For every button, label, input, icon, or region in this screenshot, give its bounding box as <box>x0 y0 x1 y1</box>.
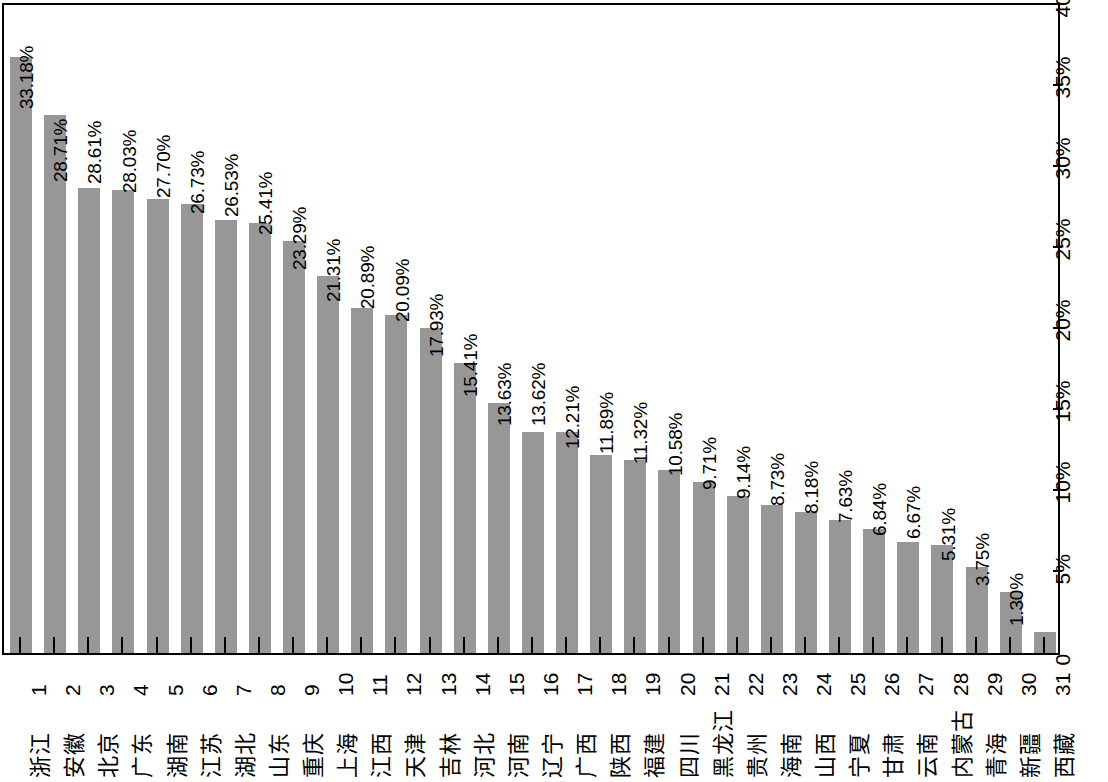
category-index-label: 12 <box>403 656 424 696</box>
category-name-label: 天津 <box>405 696 427 778</box>
category-axis-tick <box>429 637 431 654</box>
category-index-label: 23 <box>779 656 800 696</box>
value-axis-tick-label: 20% <box>1052 282 1073 342</box>
category-name-label: 广东 <box>132 696 154 778</box>
category-axis-tick <box>770 637 772 654</box>
category-index-label: 8 <box>267 656 288 696</box>
category-index-label: 25 <box>847 656 868 696</box>
value-axis-ticks <box>4 5 1062 653</box>
category-axis-tick <box>1009 637 1011 654</box>
category-name-label: 广西 <box>576 696 598 778</box>
category-index-label: 11 <box>369 656 390 696</box>
chart-canvas: 36.78%33.18%28.71%28.61%28.03%27.70%26.7… <box>0 0 1108 782</box>
category-index-label: 4 <box>130 656 151 696</box>
category-name-label: 福建 <box>644 696 666 778</box>
category-index-label: 6 <box>199 656 220 696</box>
category-axis-tick <box>702 637 704 654</box>
category-index-label: 7 <box>233 656 254 696</box>
category-axis-tick <box>463 637 465 654</box>
category-index-label: 5 <box>165 656 186 696</box>
category-index-label: 15 <box>506 656 527 696</box>
category-name-label: 河南 <box>508 696 530 778</box>
category-axis-tick <box>531 637 533 654</box>
category-name-label: 黑龙江 <box>713 696 735 778</box>
category-index-label: 26 <box>881 656 902 696</box>
category-axis-tick <box>941 637 943 654</box>
category-axis-ticks <box>2 637 1060 657</box>
category-name-label: 贵州 <box>747 696 769 778</box>
category-axis-tick <box>258 637 260 654</box>
category-axis-tick <box>190 637 192 654</box>
category-axis-tick <box>872 637 874 654</box>
category-name-label: 新疆 <box>1020 696 1042 778</box>
category-name-label: 云南 <box>917 696 939 778</box>
category-name-label: 河北 <box>474 696 496 778</box>
category-axis-tick <box>565 637 567 654</box>
category-index-label: 29 <box>984 656 1005 696</box>
category-index-label: 31 <box>1052 656 1073 696</box>
category-name-label: 安徽 <box>64 696 86 778</box>
value-axis-tick-label: 35% <box>1052 39 1073 99</box>
category-name-label: 吉林 <box>440 696 462 778</box>
value-axis-tick-label: 30% <box>1052 120 1073 180</box>
category-axis-tick <box>19 637 21 654</box>
category-index-label: 17 <box>574 656 595 696</box>
category-name-label: 辽宁 <box>542 696 564 778</box>
category-index-labels: 1234567891011121314151617181920212223242… <box>2 660 1060 700</box>
category-index-label: 22 <box>745 656 766 696</box>
category-index-label: 21 <box>711 656 732 696</box>
category-axis-tick <box>668 637 670 654</box>
category-name-label: 上海 <box>337 696 359 778</box>
category-index-label: 14 <box>472 656 493 696</box>
category-axis-tick <box>804 637 806 654</box>
category-index-label: 28 <box>950 656 971 696</box>
category-name-label: 四川 <box>679 696 701 778</box>
value-axis-tick-label: 15% <box>1052 363 1073 423</box>
category-axis-tick <box>633 637 635 654</box>
category-axis-tick <box>326 637 328 654</box>
value-axis-tick-label: 25% <box>1052 201 1073 261</box>
category-axis-tick <box>736 637 738 654</box>
plot-frame: 36.78%33.18%28.71%28.61%28.03%27.70%26.7… <box>2 3 1060 655</box>
category-index-label: 16 <box>540 656 561 696</box>
category-axis-tick <box>394 637 396 654</box>
category-name-label: 海南 <box>781 696 803 778</box>
category-name-labels: 浙江安徽北京广东湖南江苏湖北山东重庆上海江西天津吉林河北河南辽宁广西陕西福建四川… <box>2 700 1060 782</box>
category-name-label: 重庆 <box>303 696 325 778</box>
category-name-label: 山东 <box>269 696 291 778</box>
category-index-label: 3 <box>96 656 117 696</box>
category-name-label: 湖北 <box>235 696 257 778</box>
value-axis-tick-labels: 05%10%15%20%25%30%35%40% <box>1062 3 1108 655</box>
category-name-label: 陕西 <box>610 696 632 778</box>
category-name-label: 甘肃 <box>883 696 905 778</box>
category-name-label: 宁夏 <box>849 696 871 778</box>
category-index-label: 10 <box>335 656 356 696</box>
category-name-label: 西藏 <box>1054 696 1076 778</box>
category-index-label: 9 <box>301 656 322 696</box>
category-name-label: 浙江 <box>30 696 52 778</box>
category-axis-tick <box>838 637 840 654</box>
category-index-label: 19 <box>642 656 663 696</box>
value-axis-tick-label: 10% <box>1052 444 1073 504</box>
category-index-label: 13 <box>438 656 459 696</box>
category-axis-tick <box>1043 637 1045 654</box>
category-axis-tick <box>53 637 55 654</box>
value-axis-tick-label: 40% <box>1052 0 1073 18</box>
category-name-label: 内蒙古 <box>952 696 974 778</box>
bar-value-label: 36.78% <box>0 0 2 51</box>
category-axis-tick <box>497 637 499 654</box>
category-index-label: 2 <box>62 656 83 696</box>
category-index-label: 27 <box>915 656 936 696</box>
category-index-label: 24 <box>813 656 834 696</box>
category-name-label: 青海 <box>986 696 1008 778</box>
category-name-label: 江西 <box>371 696 393 778</box>
category-axis-tick <box>121 637 123 654</box>
category-index-label: 30 <box>1018 656 1039 696</box>
category-name-label: 山西 <box>815 696 837 778</box>
category-axis-tick <box>975 637 977 654</box>
category-axis-tick <box>906 637 908 654</box>
category-name-label: 江苏 <box>201 696 223 778</box>
category-index-label: 20 <box>677 656 698 696</box>
category-axis-tick <box>156 637 158 654</box>
category-name-label: 湖南 <box>167 696 189 778</box>
